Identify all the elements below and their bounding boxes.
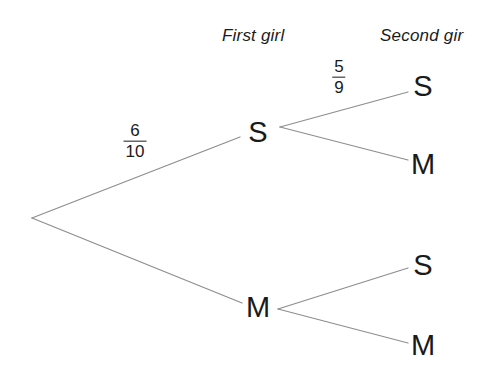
probability-tree-diagram: First girl Second gir S M S M S M 6 10 5… xyxy=(0,0,483,368)
node-second-girl-s-from-s: S xyxy=(413,72,432,101)
fraction-numerator: 6 xyxy=(124,122,147,141)
node-second-girl-m-from-s: M xyxy=(411,150,435,179)
branch-first-s-to-second-s xyxy=(280,92,408,127)
fraction-denominator: 10 xyxy=(124,141,147,161)
column-header-first-girl: First girl xyxy=(222,26,284,46)
branch-first-m-to-second-m xyxy=(278,309,408,343)
column-header-second-girl: Second gir xyxy=(380,26,463,46)
branch-first-m-to-second-s xyxy=(278,268,408,309)
fraction-numerator: 5 xyxy=(332,58,345,77)
tree-branches-layer xyxy=(0,0,483,368)
node-second-girl-s-from-m: S xyxy=(413,251,432,280)
node-second-girl-m-from-m: M xyxy=(411,331,435,360)
node-first-girl-s: S xyxy=(248,118,267,147)
branch-root-to-first-m xyxy=(32,218,242,303)
probability-label-six-tenths: 6 10 xyxy=(124,122,147,161)
node-first-girl-m: M xyxy=(246,293,270,322)
branch-first-s-to-second-m xyxy=(280,127,408,160)
probability-label-five-ninths: 5 9 xyxy=(332,58,345,97)
fraction-denominator: 9 xyxy=(332,77,345,97)
